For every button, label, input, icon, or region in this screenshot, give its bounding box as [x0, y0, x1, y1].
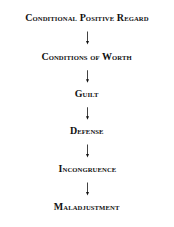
node-label: Incongruence — [58, 164, 116, 174]
arrow-down-icon — [86, 101, 89, 126]
node-conditions-of-worth: Conditions of Worth — [0, 52, 174, 62]
arrow-down-icon — [86, 176, 89, 202]
arrow-down-icon — [86, 138, 89, 164]
flowchart: Conditional Positive Regard Conditions o… — [0, 0, 174, 227]
node-label: Defense — [70, 126, 104, 136]
arrow-down-icon — [86, 25, 89, 51]
node-label: Conditional Positive Regard — [25, 13, 148, 23]
node-label: Conditions of Worth — [42, 52, 132, 62]
node-conditional-positive-regard: Conditional Positive Regard — [0, 13, 174, 23]
node-defense: Defense — [0, 126, 174, 136]
node-label: Guilt — [75, 89, 99, 99]
arrow-down-icon — [86, 64, 89, 89]
node-maladjustment: Maladjustment — [0, 202, 174, 212]
node-label: Maladjustment — [54, 202, 120, 212]
node-guilt: Guilt — [0, 89, 174, 99]
node-incongruence: Incongruence — [0, 164, 174, 174]
